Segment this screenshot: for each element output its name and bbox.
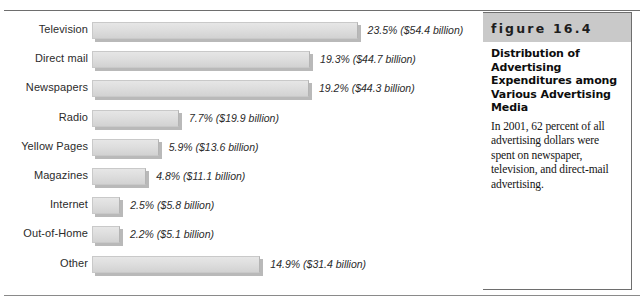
bar-row: Magazines4.8% ($11.1 billion) <box>0 168 480 190</box>
bar-track <box>92 80 309 97</box>
bar-track <box>92 110 179 127</box>
bar-row: Yellow Pages5.9% ($13.6 billion) <box>0 139 480 161</box>
caption-body: Distribution of Advertising Expenditures… <box>491 47 624 191</box>
bar <box>92 110 179 127</box>
bar-category-label: Radio <box>0 111 88 123</box>
bar-track <box>92 168 146 185</box>
bar-row: Other14.9% ($31.4 billion) <box>0 256 480 278</box>
bar-category-label: Television <box>0 23 88 35</box>
bar <box>92 80 309 97</box>
caption-title: Distribution of Advertising Expenditures… <box>491 47 624 115</box>
bar <box>92 256 260 273</box>
bar-category-label: Magazines <box>0 169 88 181</box>
bar-value-label: 7.7% ($19.9 billion) <box>189 112 279 124</box>
bar <box>92 226 120 243</box>
bar-value-label: 19.2% ($44.3 billion) <box>319 82 415 94</box>
bar-row: Out-of-Home2.2% ($5.1 billion) <box>0 226 480 248</box>
bar-category-label: Yellow Pages <box>0 140 88 152</box>
bar-value-label: 4.8% ($11.1 billion) <box>156 170 245 182</box>
bar-track <box>92 226 120 243</box>
bar-value-label: 5.9% ($13.6 billion) <box>169 141 259 153</box>
bar-track <box>92 22 358 39</box>
bar-value-label: 19.3% ($44.7 billion) <box>320 53 416 65</box>
bar-value-label: 2.2% ($5.1 billion) <box>130 228 214 240</box>
bar <box>92 197 120 214</box>
bar-row: Direct mail19.3% ($44.7 billion) <box>0 51 480 73</box>
bar <box>92 168 146 185</box>
bar <box>92 22 358 39</box>
bar-category-label: Internet <box>0 198 88 210</box>
bar-row: Television23.5% ($54.4 billion) <box>0 22 480 44</box>
figure-caption-box: figure 16.4 Distribution of Advertising … <box>483 12 632 290</box>
bar-value-label: 23.5% ($54.4 billion) <box>368 24 464 36</box>
bar-value-label: 14.9% ($31.4 billion) <box>270 258 366 270</box>
bar-track <box>92 256 260 273</box>
bottom-divider-rule <box>4 295 640 296</box>
bar-row: Newspapers19.2% ($44.3 billion) <box>0 80 480 102</box>
bar-category-label: Newspapers <box>0 81 88 93</box>
bar-chart: Television23.5% ($54.4 billion)Direct ma… <box>0 18 480 286</box>
bar-row: Radio7.7% ($19.9 billion) <box>0 110 480 132</box>
bar-category-label: Other <box>0 257 88 269</box>
bar-category-label: Out-of-Home <box>0 227 88 239</box>
bar-track <box>92 51 310 68</box>
bar <box>92 139 159 156</box>
figure-container: Television23.5% ($54.4 billion)Direct ma… <box>0 0 644 305</box>
bar-value-label: 2.5% ($5.8 billion) <box>130 199 214 211</box>
top-divider-rule <box>4 10 640 11</box>
caption-description: In 2001, 62 percent of all advertising d… <box>491 119 624 192</box>
bar <box>92 51 310 68</box>
bar-track <box>92 139 159 156</box>
bar-category-label: Direct mail <box>0 52 88 64</box>
bar-row: Internet2.5% ($5.8 billion) <box>0 197 480 219</box>
bar-track <box>92 197 120 214</box>
figure-number-label: figure 16.4 <box>491 21 593 36</box>
